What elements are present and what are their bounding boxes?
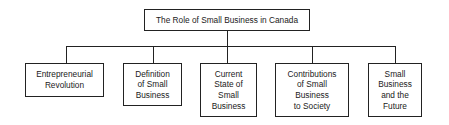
root-node: The Role of Small Business in Canada [144, 9, 310, 31]
child-node-label: Contributions of Small Business to Socie… [288, 69, 337, 111]
child-node-label: Current State of Small Business [212, 69, 246, 111]
horizontal-bus-connector [66, 46, 396, 47]
child-1-stem-connector [66, 46, 67, 63]
child-node-label: Definition of Small Business [135, 69, 170, 101]
child-4-stem-connector [312, 46, 313, 63]
child-node-current-state: Current State of Small Business [200, 63, 257, 117]
org-chart-diagram: The Role of Small Business in Canada Ent… [0, 0, 449, 125]
child-node-entrepreneurial-revolution: Entrepreneurial Revolution [25, 63, 104, 97]
child-node-small-business-future: Small Business and the Future [368, 63, 422, 117]
child-3-stem-connector [227, 46, 228, 63]
child-node-definition-of-small-business: Definition of Small Business [123, 63, 182, 106]
child-2-stem-connector [153, 46, 154, 63]
root-stem-connector [227, 31, 228, 46]
root-node-label: The Role of Small Business in Canada [156, 15, 298, 26]
child-node-label: Small Business and the Future [378, 69, 412, 111]
child-5-stem-connector [395, 46, 396, 63]
child-node-label: Entrepreneurial Revolution [36, 69, 93, 90]
child-node-contributions-to-society: Contributions of Small Business to Socie… [275, 63, 349, 117]
